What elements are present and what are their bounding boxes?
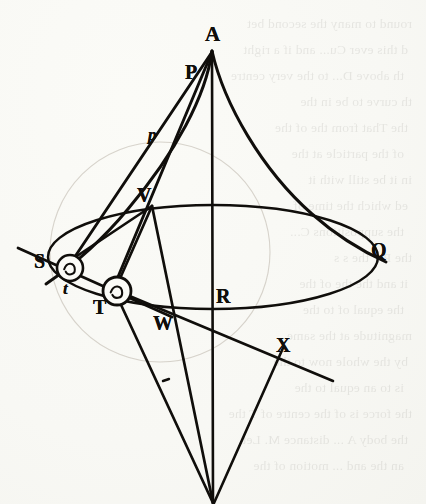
right-cusped-curve (212, 51, 386, 262)
body-marker-S (57, 255, 83, 281)
figure-root: round to many the second betd this ever … (0, 0, 426, 504)
point-label-S: S (34, 251, 45, 271)
point-label-X: X (276, 335, 290, 355)
line-A-V-T (110, 52, 212, 296)
geometry-diagram (0, 0, 426, 504)
point-label-A: A (205, 24, 220, 45)
point-label-t: t (63, 280, 68, 297)
axis-line-A-C (212, 51, 213, 504)
point-label-Q: Q (371, 240, 387, 260)
line-X-C (214, 348, 283, 503)
line-V-C (152, 206, 213, 503)
point-label-p: p (148, 126, 157, 143)
point-label-R: R (216, 286, 230, 306)
stray-tick-mark (163, 379, 169, 381)
point-label-T: T (93, 297, 106, 317)
body-marker-T (103, 277, 131, 305)
point-label-V: V (137, 185, 151, 205)
point-label-P: P (185, 62, 197, 82)
point-label-W: W (153, 313, 173, 333)
